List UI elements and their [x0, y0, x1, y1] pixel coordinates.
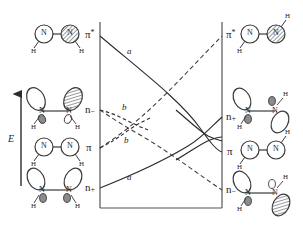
- molecule-n-plus-cis: [24, 165, 86, 203]
- lobe-right-up: [60, 84, 86, 113]
- left-level-pi-star: π*: [85, 29, 95, 40]
- lobe-left-up: [23, 84, 49, 113]
- avoided-crossing-left-upper: [100, 110, 148, 130]
- hydrogen-label: H: [31, 161, 36, 168]
- hydrogen-label: H: [79, 48, 84, 55]
- atom-label-n: N: [67, 29, 73, 37]
- hydrogen-label: H: [75, 203, 80, 210]
- lobe-right-down: [64, 194, 71, 203]
- atom-label-n: N: [272, 189, 278, 197]
- right-level-n-minus: n−: [226, 184, 236, 196]
- curve-label-a-upper: a: [127, 47, 132, 56]
- hydrogen-label: H: [283, 174, 288, 181]
- hydrogen-label: H: [285, 13, 290, 20]
- energy-axis-label: E: [8, 134, 14, 144]
- hydrogen-label: H: [237, 206, 242, 213]
- curve-label-b-upper: b: [122, 103, 127, 112]
- right-level-pi-star: π*: [226, 29, 236, 40]
- atom-label-n: N: [245, 189, 251, 197]
- atom-label-n: N: [39, 107, 45, 115]
- atom-label-n: N: [247, 29, 253, 37]
- left-level-n-minus: n−: [85, 104, 95, 116]
- atom-label-n: N: [272, 107, 278, 115]
- lobe-left-down: [40, 194, 47, 203]
- right-level-n-plus: n+: [226, 111, 236, 123]
- atom-label-n: N: [273, 29, 279, 37]
- molecule-n-minus-cis: [23, 84, 86, 124]
- lobe-right-up: [61, 165, 86, 193]
- atom-label-n: N: [66, 107, 72, 115]
- atom-label-n: N: [41, 29, 47, 37]
- correlation-curve-b-descending: [100, 110, 222, 190]
- curve-label-a-lower: a: [127, 173, 132, 182]
- avoided-crossing-right-upper: [176, 110, 222, 141]
- atom-label-n: N: [67, 142, 73, 150]
- correlation-curve-b-ascending: [100, 36, 222, 148]
- atom-label-n: N: [66, 186, 72, 194]
- hydrogen-label: H: [31, 124, 36, 131]
- right-level-pi: π: [227, 146, 233, 157]
- lobe-right-up: [269, 97, 276, 106]
- hydrogen-label: H: [79, 161, 84, 168]
- atom-label-n: N: [39, 186, 45, 194]
- left-level-pi: π: [86, 142, 92, 153]
- lobe-right-down: [63, 114, 73, 125]
- orbital-correlation-diagram: E π* n− π n+ π* n+ π n− a b b a N N H H …: [0, 0, 303, 229]
- lobe-left-down: [37, 114, 47, 125]
- hydrogen-label: H: [237, 48, 242, 55]
- atom-label-n: N: [245, 107, 251, 115]
- atom-label-n: N: [41, 142, 47, 150]
- atom-label-n: N: [247, 145, 253, 153]
- left-level-n-plus: n+: [85, 182, 95, 194]
- hydrogen-label: H: [31, 203, 36, 210]
- hydrogen-label: H: [237, 124, 242, 131]
- hydrogen-label: H: [283, 91, 288, 98]
- hydrogen-label: H: [285, 129, 290, 136]
- hydrogen-label: H: [237, 164, 242, 171]
- hydrogen-label: H: [75, 124, 80, 131]
- hydrogen-label: H: [31, 48, 36, 55]
- atom-label-n: N: [273, 145, 279, 153]
- curve-label-b-lower: b: [124, 136, 129, 145]
